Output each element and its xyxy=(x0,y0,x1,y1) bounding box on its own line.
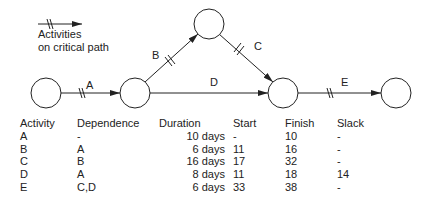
cell-duration: 6 days xyxy=(159,143,225,156)
header-slack: Slack xyxy=(337,117,377,130)
cell-dependence: A xyxy=(77,168,159,181)
edge-b: B xyxy=(145,34,198,82)
cell-activity: A xyxy=(20,130,77,143)
cell-dependence: A xyxy=(77,143,159,156)
cell-dependence: - xyxy=(77,130,159,143)
cell-finish: 38 xyxy=(285,181,337,194)
legend-line-2: on critical path xyxy=(38,41,109,54)
cell-slack: - xyxy=(337,130,377,143)
cell-activity: C xyxy=(20,155,77,168)
table-row: A - 10 days - 10 - xyxy=(20,130,377,143)
cell-slack: 14 xyxy=(337,168,377,181)
activity-table: Activity Dependence Duration Start Finis… xyxy=(20,117,377,194)
edge-label-a: A xyxy=(86,79,94,91)
table-header-row: Activity Dependence Duration Start Finis… xyxy=(20,117,377,130)
node-2 xyxy=(120,78,150,108)
edge-label-b: B xyxy=(152,49,159,61)
cell-dependence: B xyxy=(77,155,159,168)
cell-activity: E xyxy=(20,181,77,194)
header-start: Start xyxy=(233,117,285,130)
edge-label-d: D xyxy=(210,76,218,88)
cell-slack: - xyxy=(337,155,377,168)
cell-slack: - xyxy=(337,143,377,156)
cell-slack: - xyxy=(337,181,377,194)
cell-start: 11 xyxy=(233,143,285,156)
node-1 xyxy=(31,78,61,108)
table-row: D A 8 days 11 18 14 xyxy=(20,168,377,181)
edge-d: D xyxy=(150,76,268,93)
header-activity: Activity xyxy=(20,117,77,130)
table-row: B A 6 days 11 16 - xyxy=(20,143,377,156)
cell-finish: 32 xyxy=(285,155,337,168)
cell-start: - xyxy=(233,130,285,143)
edge-a: A xyxy=(61,79,120,98)
cell-activity: B xyxy=(20,143,77,156)
header-dependence: Dependence xyxy=(77,117,159,130)
edge-c: C xyxy=(219,34,273,82)
cell-activity: D xyxy=(20,168,77,181)
header-finish: Finish xyxy=(285,117,337,130)
node-5 xyxy=(381,78,411,108)
cell-start: 33 xyxy=(233,181,285,194)
cell-duration: 6 days xyxy=(159,181,225,194)
cell-start: 17 xyxy=(233,155,285,168)
cell-finish: 16 xyxy=(285,143,337,156)
edge-label-c: C xyxy=(254,40,262,52)
cell-duration: 8 days xyxy=(159,168,225,181)
node-4 xyxy=(268,78,298,108)
cell-dependence: C,D xyxy=(77,181,159,194)
legend-line-1: Activities xyxy=(38,28,109,41)
cell-start: 11 xyxy=(233,168,285,181)
edge-label-e: E xyxy=(341,76,348,88)
cell-duration: 10 days xyxy=(159,130,225,143)
cell-finish: 10 xyxy=(285,130,337,143)
cell-duration: 16 days xyxy=(159,155,225,168)
cell-finish: 18 xyxy=(285,168,337,181)
header-duration: Duration xyxy=(159,117,225,130)
table-row: C B 16 days 17 32 - xyxy=(20,155,377,168)
node-3 xyxy=(194,9,224,39)
edge-e: E xyxy=(298,76,381,98)
legend: Activities on critical path xyxy=(38,28,109,54)
table-row: E C,D 6 days 33 38 - xyxy=(20,181,377,194)
